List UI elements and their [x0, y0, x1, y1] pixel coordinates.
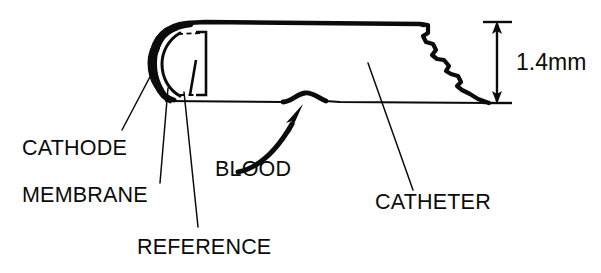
reference-electrode [178, 32, 206, 95]
catheter-body [152, 22, 492, 103]
catheter-sensor-figure: 1.4mm CATHODE MEMBRANE REFERENCE BLOOD C… [0, 0, 601, 273]
break-line-jagged [421, 24, 489, 103]
catheter-break-edge [421, 24, 489, 103]
label-cathode: CATHODE [22, 136, 127, 160]
catheter-top-outline [152, 22, 424, 57]
leader-lines [122, 63, 413, 227]
dimension-1-4mm: 1.4mm [483, 21, 586, 104]
catheter-inlet-bump [283, 93, 326, 102]
part-labels: CATHODE MEMBRANE REFERENCE BLOOD CATHETE… [22, 136, 491, 259]
reference-bracket-shape [196, 32, 206, 95]
figure-canvas: 1.4mm CATHODE MEMBRANE REFERENCE BLOOD C… [0, 0, 601, 273]
leader-line-catheter [368, 63, 413, 190]
reference-inner-edge [190, 60, 196, 95]
label-blood: BLOOD [215, 157, 291, 181]
leader-line-reference [184, 92, 198, 227]
leader-line-cathode [122, 73, 152, 130]
label-membrane: MEMBRANE [22, 183, 148, 207]
label-reference: REFERENCE [137, 235, 271, 259]
catheter-bottom-outline [166, 93, 492, 103]
leader-line-membrane [160, 88, 168, 183]
membrane-inner-arc [162, 33, 180, 96]
dimension-value-label: 1.4mm [516, 49, 586, 75]
label-catheter: CATHETER [375, 190, 491, 214]
